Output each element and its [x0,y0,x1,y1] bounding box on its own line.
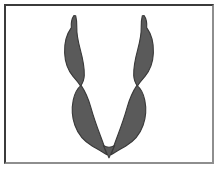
lower-left-lobe [72,85,106,154]
lobe-group [65,16,154,158]
figure-frame [4,4,214,164]
lower-right-lobe [111,85,145,154]
figure-canvas [6,6,212,162]
screenshot-root [0,0,220,170]
upper-left-lobe [65,16,85,86]
upper-right-lobe [134,16,154,86]
